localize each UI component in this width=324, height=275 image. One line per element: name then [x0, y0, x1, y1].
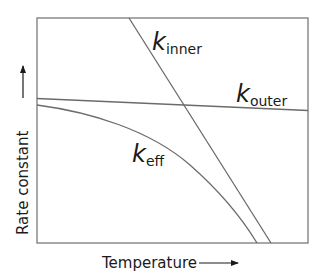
k-inner-label: kinner — [152, 28, 202, 57]
rate-constant-diagram: kinner kouter keff Temperature Rate cons… — [0, 0, 324, 275]
k-outer-symbol: k — [236, 80, 251, 108]
x-axis-label: Temperature — [101, 254, 197, 272]
k-inner-symbol: k — [152, 28, 167, 56]
k-inner-subscript: inner — [166, 41, 202, 57]
k-eff-curve — [37, 105, 257, 243]
k-outer-subscript: outer — [250, 93, 288, 109]
k-outer-label: kouter — [236, 80, 287, 109]
k-eff-symbol: k — [132, 140, 147, 168]
k-eff-label: keff — [132, 140, 165, 169]
k-eff-subscript: eff — [146, 153, 165, 169]
y-axis-label: Rate constant — [14, 131, 32, 235]
